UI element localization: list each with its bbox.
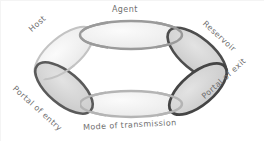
label-agent: Agent	[112, 5, 138, 14]
chain-of-infection-diagram: Agent Reservoir Portal of exit Mode of t…	[0, 0, 264, 141]
